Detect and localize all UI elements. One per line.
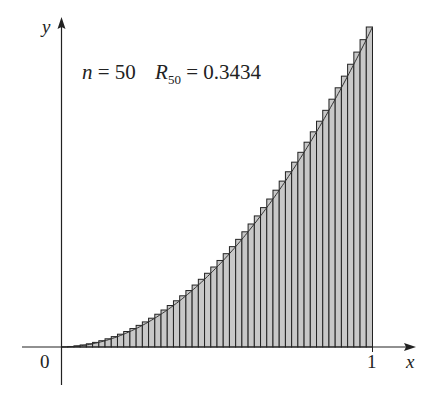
riemann-bar bbox=[335, 88, 341, 347]
riemann-bar bbox=[167, 306, 173, 347]
riemann-bar bbox=[366, 27, 372, 347]
riemann-bar bbox=[155, 314, 161, 347]
riemann-bar bbox=[198, 279, 204, 347]
riemann-bar bbox=[173, 301, 179, 347]
riemann-bar bbox=[180, 296, 186, 347]
riemann-bar bbox=[292, 162, 298, 347]
riemann-bar bbox=[279, 181, 285, 347]
riemann-bar bbox=[211, 267, 217, 347]
x-tick-label-one: 1 bbox=[367, 351, 377, 372]
riemann-bar bbox=[192, 285, 198, 347]
riemann-bar bbox=[254, 216, 260, 347]
riemann-bar bbox=[298, 152, 304, 347]
riemann-bar bbox=[248, 224, 254, 347]
riemann-bar bbox=[261, 208, 267, 347]
riemann-bar bbox=[285, 172, 291, 347]
riemann-bar bbox=[267, 199, 273, 347]
riemann-bar bbox=[142, 322, 148, 347]
riemann-sum-plot: y x 0 1 n = 50 R50 = 0.3434 bbox=[0, 0, 441, 409]
riemann-bar bbox=[242, 232, 248, 347]
riemann-bar bbox=[310, 132, 316, 347]
riemann-bar bbox=[354, 52, 360, 347]
riemann-bar bbox=[223, 254, 229, 347]
annotation: n = 50 R50 = 0.3434 bbox=[82, 60, 262, 87]
x-axis-label: x bbox=[405, 351, 415, 372]
riemann-bar bbox=[161, 310, 167, 347]
y-axis-label: y bbox=[40, 16, 51, 37]
riemann-bar bbox=[149, 318, 155, 347]
riemann-bar bbox=[341, 76, 347, 347]
origin-label: 0 bbox=[40, 351, 50, 372]
riemann-bar bbox=[317, 121, 323, 347]
riemann-bar bbox=[304, 142, 310, 347]
riemann-bar bbox=[236, 239, 242, 347]
riemann-bar bbox=[329, 99, 335, 347]
riemann-bar bbox=[217, 260, 223, 347]
riemann-bar bbox=[348, 64, 354, 347]
riemann-bar bbox=[229, 247, 235, 347]
riemann-bar bbox=[360, 40, 366, 347]
riemann-bar bbox=[273, 190, 279, 347]
riemann-bar bbox=[205, 273, 211, 347]
riemann-bar bbox=[186, 291, 192, 347]
riemann-bar bbox=[323, 110, 329, 347]
